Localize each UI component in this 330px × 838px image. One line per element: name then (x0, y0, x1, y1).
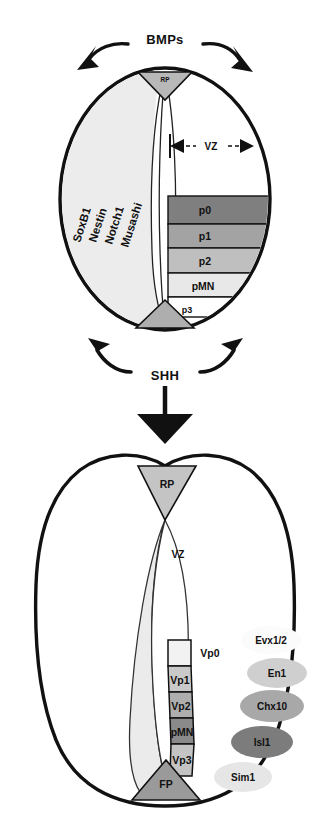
vz-label-bottom: VZ (172, 549, 185, 560)
domain-label-vp1: Vp1 (170, 674, 189, 686)
marker-label-en1: En1 (268, 668, 287, 679)
domain-label-vp0: Vp0 (200, 647, 219, 659)
floor-plate-label-bottom: FP (159, 778, 172, 790)
shh-label: SHH (151, 368, 179, 383)
bmp-right-arrow-icon (203, 44, 253, 72)
top-panel: BMPs (60, 32, 273, 383)
roof-plate-label-bottom: RP (160, 478, 175, 490)
domain-label-vp3: Vp3 (172, 754, 191, 766)
domain-label-vp2: Vp2 (171, 700, 190, 712)
domain-label-pmn-bottom: pMN (171, 726, 194, 738)
vz-label-top: VZ (205, 141, 218, 152)
bottom-panel: RP FP VZ Vp0 Vp1 Vp2 pMN Vp3 Evx1/2 En1 … (36, 455, 307, 806)
domain-band-p0 (168, 196, 273, 224)
roof-plate-label-top: RP (160, 76, 170, 83)
left-hemisphere-shading (62, 70, 161, 328)
marker-label-sim1: Sim1 (231, 772, 255, 783)
shh-right-arrow-icon (200, 338, 243, 372)
domain-label-p2: p2 (199, 255, 211, 267)
bmp-left-arrow-icon (77, 44, 128, 70)
neural-tube-patterning-figure: BMPs (0, 0, 330, 838)
shh-left-arrow-icon (88, 338, 131, 372)
domain-band-vp0 (168, 640, 191, 666)
domain-band-p1 (168, 224, 273, 248)
bmps-label: BMPs (146, 32, 183, 47)
marker-label-isl1: Isl1 (254, 737, 271, 748)
domain-band-pmn (168, 273, 273, 297)
domain-label-p1: p1 (199, 230, 211, 242)
marker-label-evx1-2: Evx1/2 (255, 635, 287, 646)
domain-label-p0: p0 (199, 204, 211, 216)
marker-label-chx10: Chx10 (257, 701, 287, 712)
domain-label-pmn: pMN (192, 280, 215, 292)
domain-label-p3: p3 (182, 305, 193, 315)
transition-arrow-icon (137, 386, 193, 444)
